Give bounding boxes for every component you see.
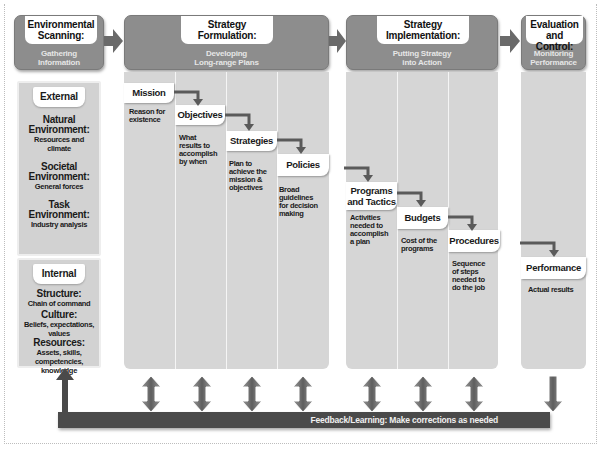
feedback-learning-bar: Feedback/Learning: Make corrections as n… <box>58 412 550 428</box>
stage-evaluation-control: Evaluation and Control: Monitoring Perfo… <box>521 15 586 70</box>
double-arrow-icon <box>362 376 382 412</box>
stage-subtitle: Putting Strategy into Action <box>347 49 497 67</box>
feedback-label: Feedback/Learning: Make corrections as n… <box>310 414 498 426</box>
feedback-up-arrow-icon <box>56 368 74 428</box>
stage-arrow-icon <box>500 28 521 54</box>
step-programs-tactics: Programs and Tactics <box>346 182 397 210</box>
programs-description: Activities needed to accomplish a plan <box>350 214 388 246</box>
double-arrow-icon <box>141 376 161 412</box>
double-arrow-icon <box>293 376 313 412</box>
stage-subtitle: Developing Long-range Plans <box>125 49 328 67</box>
stage-arrow-icon <box>329 28 347 54</box>
stage-title: Strategy Implementation: <box>377 16 469 44</box>
societal-environment: Societal Environment: General forces <box>19 162 99 191</box>
external-heading: External <box>33 87 85 107</box>
elbow-arrow-icon <box>225 113 255 133</box>
elbow-arrow-icon <box>344 166 374 184</box>
step-performance: Performance <box>521 257 586 279</box>
elbow-arrow-icon <box>520 241 560 259</box>
internal-heading: Internal <box>33 264 85 284</box>
stage-strategy-implementation: Strategy Implementation: Putting Strateg… <box>346 15 498 70</box>
internal-factors-box: Internal Structure: Chain of command Cul… <box>17 258 101 368</box>
step-mission: Mission <box>124 83 174 103</box>
step-procedures: Procedures <box>448 230 500 252</box>
task-environment: Task Environment: Industry analysis <box>19 200 99 229</box>
culture: Culture: Beliefs, expectations, values <box>19 310 99 338</box>
double-arrow-icon <box>413 376 433 412</box>
step-policies: Policies <box>277 154 329 176</box>
double-arrow-icon <box>464 376 484 412</box>
elbow-arrow-icon <box>397 191 427 209</box>
step-strategies: Strategies <box>226 131 277 151</box>
down-arrow-icon <box>543 376 563 412</box>
double-arrow-icon <box>242 376 262 412</box>
budgets-description: Cost of the programs <box>401 237 437 253</box>
elbow-arrow-icon <box>448 215 478 233</box>
elbow-arrow-icon <box>277 138 307 156</box>
procedures-description: Sequence of steps needed to do the job <box>452 260 485 292</box>
evaluation-column <box>521 72 586 369</box>
stage-title: Evaluation and Control: <box>526 16 583 44</box>
double-arrow-icon <box>192 376 212 412</box>
step-objectives: Objectives <box>175 105 225 125</box>
stage-title: Environmental Scanning: <box>25 16 97 44</box>
stage-title: Strategy Formulation: <box>181 16 273 44</box>
stage-strategy-formulation: Strategy Formulation: Developing Long-ra… <box>124 15 329 70</box>
natural-environment: Natural Environment: Resources and clima… <box>19 115 99 153</box>
external-factors-box: External Natural Environment: Resources … <box>17 81 101 256</box>
structure: Structure: Chain of command <box>19 289 99 308</box>
mission-description: Reason for existence <box>129 108 165 124</box>
performance-description: Actual results <box>528 286 573 294</box>
stage-environmental-scanning: Environmental Scanning: Gathering Inform… <box>14 15 104 70</box>
stage-arrow-icon <box>104 28 124 54</box>
policies-description: Broad guidelines for decision making <box>279 186 318 218</box>
strategies-description: Plan to achieve the mission & objectives <box>229 160 267 192</box>
stage-subtitle: Gathering Information <box>15 49 103 67</box>
objectives-description: What results to accomplish by when <box>179 134 217 166</box>
step-budgets: Budgets <box>397 207 448 229</box>
elbow-arrow-icon <box>174 90 204 108</box>
column-divider <box>277 72 278 369</box>
stage-subtitle: Monitoring Performance <box>522 49 585 67</box>
